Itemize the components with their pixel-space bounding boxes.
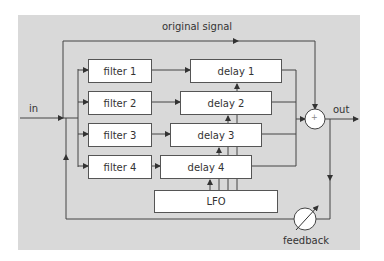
original-signal-label: original signal bbox=[162, 21, 232, 32]
delay-3-block: delay 3 bbox=[170, 123, 262, 147]
lfo-block: LFO bbox=[154, 190, 278, 213]
filter-3-label: filter 3 bbox=[104, 130, 137, 141]
lfo-label: LFO bbox=[206, 196, 225, 207]
input-label: in bbox=[29, 103, 38, 114]
diagram: original signal in out + feedback filter… bbox=[0, 0, 384, 261]
filter-1-block: filter 1 bbox=[88, 59, 152, 83]
delay-2-label: delay 2 bbox=[208, 98, 245, 109]
filter-1-label: filter 1 bbox=[104, 66, 137, 77]
filter-4-block: filter 4 bbox=[88, 155, 152, 179]
filter-2-block: filter 2 bbox=[88, 91, 152, 115]
delay-4-block: delay 4 bbox=[160, 155, 252, 179]
delay-3-label: delay 3 bbox=[198, 130, 235, 141]
delay-1-block: delay 1 bbox=[190, 59, 282, 83]
filter-4-label: filter 4 bbox=[104, 162, 137, 173]
filter-3-block: filter 3 bbox=[88, 123, 152, 147]
output-label: out bbox=[333, 104, 349, 115]
delay-4-label: delay 4 bbox=[188, 162, 225, 173]
feedback-label: feedback bbox=[283, 235, 329, 246]
filter-2-label: filter 2 bbox=[104, 98, 137, 109]
delay-2-block: delay 2 bbox=[180, 91, 272, 115]
delay-1-label: delay 1 bbox=[218, 66, 255, 77]
summer-plus-symbol: + bbox=[311, 113, 318, 122]
